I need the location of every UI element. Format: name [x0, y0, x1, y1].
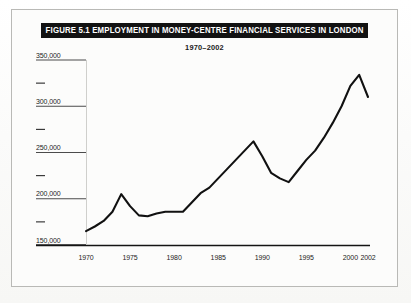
figure-title: FIGURE 5.1 EMPLOYMENT IN MONEY-CENTRE FI… — [46, 26, 364, 35]
figure-inner-area — [30, 25, 403, 291]
figure-title-banner: FIGURE 5.1 EMPLOYMENT IN MONEY-CENTRE FI… — [41, 23, 368, 38]
figure-subtitle: 1970–2002 — [41, 43, 368, 52]
scanned-page: FIGURE 5.1 EMPLOYMENT IN MONEY-CENTRE FI… — [0, 0, 411, 303]
